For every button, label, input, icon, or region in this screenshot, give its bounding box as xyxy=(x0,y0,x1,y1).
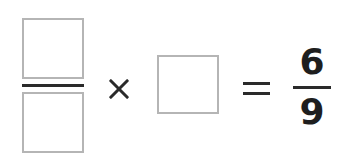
middle-value-box[interactable] xyxy=(157,55,219,114)
result-denominator: 9 xyxy=(293,94,331,130)
multiply-sign-icon xyxy=(106,76,132,102)
result-numerator: 6 xyxy=(293,44,331,80)
left-denominator-box[interactable] xyxy=(22,92,84,153)
left-numerator-box[interactable] xyxy=(22,18,84,79)
result-fraction-bar xyxy=(293,86,331,89)
left-fraction-bar xyxy=(22,84,84,87)
equals-sign-icon xyxy=(243,82,270,96)
